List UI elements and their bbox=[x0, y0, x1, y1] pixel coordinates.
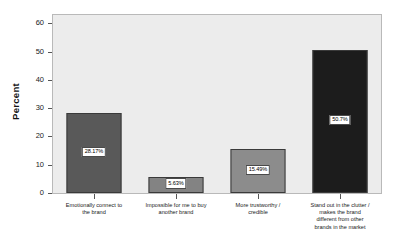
y-tick-label: 0 bbox=[40, 188, 44, 197]
y-tick-label: 60 bbox=[36, 18, 44, 27]
y-tick-label: 30 bbox=[36, 103, 44, 112]
x-tick-mark bbox=[94, 194, 95, 199]
bar-slot: 5.63% bbox=[135, 15, 217, 193]
bar-value-label: 15.49% bbox=[246, 165, 270, 176]
y-tick-label: 20 bbox=[36, 131, 44, 140]
x-axis-category-label: More trustworthy / credible bbox=[217, 202, 299, 216]
bar-value-label: 28.17% bbox=[82, 147, 106, 158]
bar-slot: 50.7% bbox=[299, 15, 381, 193]
x-axis-category-label: Impossible for me to buy another brand bbox=[135, 202, 217, 216]
bar-slot: 15.49% bbox=[217, 15, 299, 193]
bar-slot: 28.17% bbox=[53, 15, 135, 193]
x-axis-category-label: Stand out in the clutter / makes the bra… bbox=[299, 202, 381, 231]
x-tick-mark bbox=[258, 194, 259, 199]
bar-chart: Percent 0102030405060 28.17%5.63%15.49%5… bbox=[0, 0, 404, 252]
y-tick-label: 10 bbox=[36, 160, 44, 169]
y-tick-label: 40 bbox=[36, 75, 44, 84]
bar-value-label: 5.63% bbox=[165, 178, 186, 189]
x-tick-mark bbox=[340, 194, 341, 199]
bar-value-label: 50.7% bbox=[329, 115, 350, 126]
bars-layer: 28.17%5.63%15.49%50.7% bbox=[53, 15, 381, 193]
y-axis-title: Percent bbox=[10, 62, 21, 142]
x-tick-mark bbox=[176, 194, 177, 199]
y-tick-label: 50 bbox=[36, 47, 44, 56]
x-axis-category-label: Emotionally connect to the brand bbox=[53, 202, 135, 216]
